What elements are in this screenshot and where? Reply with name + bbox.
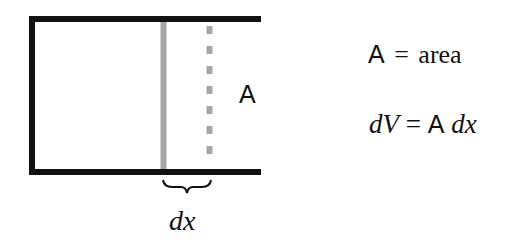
width-brace-icon bbox=[163, 180, 211, 193]
dV-V: V bbox=[383, 109, 400, 139]
volume-slice-diagram: A dx A = area dV = A dx bbox=[0, 0, 522, 240]
area-definition: A = area bbox=[368, 40, 462, 70]
cylinder-outline bbox=[29, 16, 261, 175]
dx-d: d bbox=[451, 109, 465, 139]
volume-element-equation: dV = A dx bbox=[369, 109, 477, 140]
slice-width-x: x bbox=[183, 205, 195, 236]
cylinder-area-label: A bbox=[239, 80, 256, 109]
area-word: area bbox=[418, 40, 461, 69]
equals-sign: = bbox=[394, 40, 409, 69]
slice-width-d: d bbox=[169, 205, 183, 236]
dV-d: d bbox=[369, 109, 383, 139]
slice-width-label: dx bbox=[169, 205, 195, 237]
area-symbol: A bbox=[428, 110, 445, 138]
area-symbol: A bbox=[368, 40, 385, 68]
equals-sign: = bbox=[406, 109, 421, 139]
dx-x: x bbox=[465, 109, 477, 139]
